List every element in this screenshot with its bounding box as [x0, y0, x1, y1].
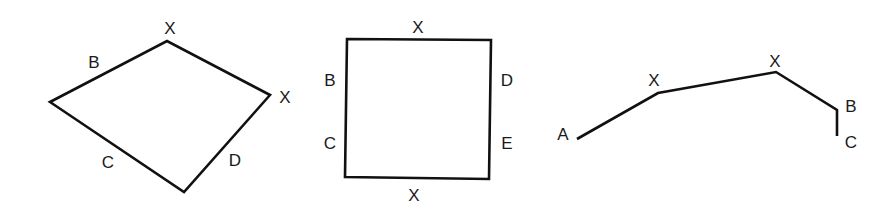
label-kite-top-x: X — [164, 19, 175, 38]
label-square-b: B — [324, 71, 335, 90]
label-kite-d: D — [229, 151, 241, 170]
label-square-c: C — [324, 134, 336, 153]
label-polyline-c: C — [845, 133, 857, 152]
label-kite-b: B — [88, 53, 99, 72]
label-kite-right-x: X — [279, 88, 290, 107]
label-kite-c: C — [102, 153, 114, 172]
figure-polyline: A X X B C — [557, 52, 857, 152]
label-square-bottom-x: X — [408, 186, 419, 205]
diagram-canvas: X B X C D X B D C E X A X X B C — [0, 0, 892, 211]
label-square-d: D — [501, 71, 513, 90]
label-square-e: E — [501, 134, 512, 153]
square-outline — [345, 39, 491, 179]
label-square-top-x: X — [412, 18, 423, 37]
label-polyline-b: B — [845, 97, 856, 116]
figure-kite: X B X C D — [50, 19, 291, 193]
label-polyline-second-x: X — [769, 52, 780, 71]
label-polyline-first-x: X — [648, 71, 659, 90]
polyline-path — [577, 72, 837, 139]
figure-square: X B D C E X — [324, 18, 513, 205]
label-polyline-a: A — [557, 125, 569, 144]
